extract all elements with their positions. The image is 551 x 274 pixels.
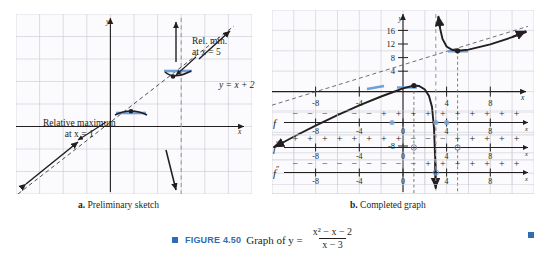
svg-text:x: x <box>524 125 528 132</box>
branch-down-arrow <box>166 150 176 190</box>
relative-min-point <box>171 74 176 79</box>
sign-mark: + <box>470 135 476 144</box>
svg-text:-8: -8 <box>312 177 319 186</box>
panel-b-x-axis-label: x <box>520 93 525 102</box>
left-tail-arrow <box>26 142 78 184</box>
figure-caption: FIGURE 4.50 Graph of y = x² − x − 2 x − … <box>172 228 357 251</box>
sign-mark: − <box>337 160 343 169</box>
sign-mark: + <box>514 135 520 144</box>
formula-numerator: x² − x − 2 <box>310 227 355 238</box>
sign-mark: − <box>425 135 431 144</box>
sign-mark: − <box>307 160 313 169</box>
x-axis-tick-labels: -8 -4 4 8 <box>312 98 492 108</box>
sign-line-f-prime: f′ -8-4 <box>272 135 534 160</box>
sign-line-f: f -8-4 <box>272 110 534 135</box>
sign-line-f-double-prime: f″ -8-4 <box>272 160 534 185</box>
sign-mark: − <box>337 110 343 119</box>
sign-mark: + <box>514 160 520 169</box>
sign-mark: + <box>411 110 417 119</box>
relative-min-leader <box>176 57 196 75</box>
svg-text:0: 0 <box>401 127 405 136</box>
svg-text:x: x <box>524 150 528 157</box>
relative-max-point <box>411 83 416 88</box>
slant-asymptote-line <box>272 26 528 105</box>
sign-mark: − <box>411 160 417 169</box>
relative-maximum-line1: Relative maximum <box>43 118 116 129</box>
sign-mark: − <box>293 160 299 169</box>
sign-mark: + <box>514 110 520 119</box>
caption-panel-a: a. Preliminary sketch <box>78 200 159 210</box>
relative-minimum-line1: Rel. min. <box>192 36 227 47</box>
caption-b-text: Completed graph <box>360 200 426 210</box>
sign-mark: − <box>440 135 446 144</box>
sign-mark: − <box>322 160 328 169</box>
figure-bullet-icon <box>172 237 178 243</box>
sign-mark: + <box>440 160 446 169</box>
annotation-relative-maximum: Relative maximum at x = 1 <box>43 118 116 140</box>
sign-mark: − <box>352 160 358 169</box>
annotation-slant-asymptote: y = x + 2 <box>219 80 255 91</box>
sign-mark: − <box>307 110 313 119</box>
sign-mark: + <box>352 135 358 144</box>
svg-text:x: x <box>524 175 528 182</box>
sign-mark: + <box>470 110 476 119</box>
relative-min-point <box>455 48 460 53</box>
sign-mark: − <box>366 110 372 119</box>
svg-text:-8: -8 <box>312 127 319 136</box>
svg-text:-4: -4 <box>356 177 363 186</box>
sign-mark: + <box>425 160 431 169</box>
figure-end-bullet-icon <box>528 232 534 238</box>
figure-number-label: FIGURE 4.50 <box>185 235 241 245</box>
sign-mark: + <box>470 160 476 169</box>
inflection-highlight <box>367 86 384 89</box>
annotation-relative-minimum: Rel. min. at x = 5 <box>192 36 227 58</box>
svg-text:8: 8 <box>488 177 492 186</box>
svg-text:-4: -4 <box>356 152 363 161</box>
sign-mark: + <box>499 135 505 144</box>
svg-text:8: 8 <box>391 53 395 63</box>
sign-mark: + <box>396 110 402 119</box>
sign-mark: + <box>455 135 461 144</box>
panel-preliminary-sketch: y x Relative maximum at x = 1 Rel. min. … <box>16 14 252 194</box>
figure-4-50: y x Relative maximum at x = 1 Rel. min. … <box>0 0 551 274</box>
svg-text:16: 16 <box>387 26 396 36</box>
svg-text:4: 4 <box>445 177 449 186</box>
sign-mark: + <box>455 110 461 119</box>
right-branch-up-arrow <box>438 16 440 28</box>
sign-mark: + <box>484 160 490 169</box>
panel-a-x-axis-label: x <box>237 127 242 136</box>
svg-text:12: 12 <box>387 39 396 49</box>
figure-caption-text: Graph of y = <box>246 234 303 246</box>
svg-text:-8: -8 <box>312 152 319 161</box>
svg-text:4: 4 <box>445 152 449 161</box>
sign-mark: + <box>425 110 431 119</box>
relative-minimum-line2: at x = 5 <box>192 47 227 58</box>
sign-mark: + <box>381 110 387 119</box>
sign-mark: − <box>352 110 358 119</box>
curve-right-branch <box>439 18 527 51</box>
caption-b-letter: b. <box>350 200 358 210</box>
formula-denominator: x − 3 <box>319 238 346 251</box>
sign-mark: + <box>499 110 505 119</box>
sign-mark: + <box>440 110 446 119</box>
sign-mark: − <box>411 135 417 144</box>
sign-mark: + <box>484 135 490 144</box>
svg-text:4: 4 <box>444 98 449 108</box>
sign-mark: + <box>484 110 490 119</box>
caption-a-text: Preliminary sketch <box>88 200 160 210</box>
sign-mark: − <box>322 110 328 119</box>
sign-mark: + <box>337 135 343 144</box>
sign-mark: + <box>366 135 372 144</box>
svg-text:0: 0 <box>401 152 405 161</box>
sign-mark: + <box>381 135 387 144</box>
sign-mark: + <box>307 135 313 144</box>
panel-a-y-axis-label: y <box>105 17 110 26</box>
relative-max-point <box>129 109 134 114</box>
caption-panel-b: b. Completed graph <box>350 200 426 210</box>
sign-mark: + <box>293 135 299 144</box>
sign-mark: − <box>396 160 402 169</box>
svg-text:8: 8 <box>488 127 492 136</box>
svg-text:0: 0 <box>401 177 405 186</box>
figure-formula-fraction: x² − x − 2 x − 3 <box>310 227 355 250</box>
sign-mark: + <box>455 160 461 169</box>
